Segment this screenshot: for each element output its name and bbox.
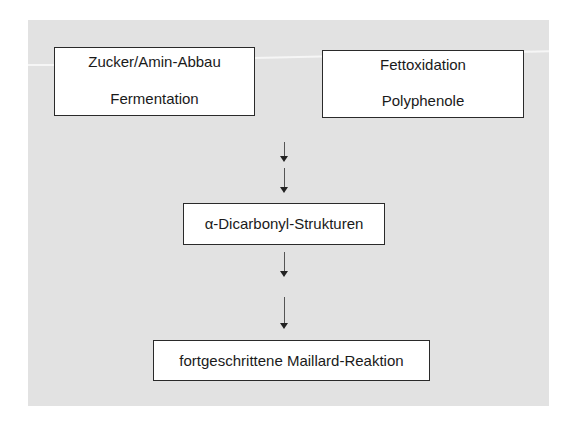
intermediate-box: α-Dicarbonyl-Strukturen bbox=[183, 203, 385, 245]
source-box-fat-oxidation-line1: Fettoxidation bbox=[323, 56, 523, 74]
source-box-fat-oxidation-line2: Polyphenole bbox=[323, 92, 523, 110]
result-label: fortgeschrittene Maillard-Reaktion bbox=[154, 352, 429, 370]
intermediate-label: α-Dicarbonyl-Strukturen bbox=[184, 215, 384, 233]
source-box-fat-oxidation: Fettoxidation Polyphenole bbox=[322, 50, 524, 118]
arrow-down-icon bbox=[280, 168, 288, 193]
source-box-sugar-amine-line2: Fermentation bbox=[55, 90, 254, 108]
arrow-down-icon bbox=[280, 252, 288, 277]
arrow-down-icon bbox=[280, 297, 288, 329]
source-box-sugar-amine: Zucker/Amin-Abbau Fermentation bbox=[54, 47, 255, 116]
result-box: fortgeschrittene Maillard-Reaktion bbox=[153, 340, 430, 381]
arrow-down-icon bbox=[280, 142, 288, 162]
source-box-sugar-amine-line1: Zucker/Amin-Abbau bbox=[55, 53, 254, 71]
